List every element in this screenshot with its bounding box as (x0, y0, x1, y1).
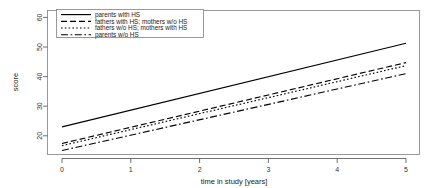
x-tick-label: 2 (198, 166, 202, 173)
legend-label-parents-wo-hs: parents w/o HS (95, 31, 139, 39)
x-tick-label: 3 (266, 166, 270, 173)
chart-figure: 60 50 40 30 20 score 0 1 2 3 4 (0, 0, 442, 188)
x-axis: 0 1 2 3 4 5 time in study [years] (60, 159, 408, 187)
series-group (62, 43, 406, 150)
y-tick-label: 60 (36, 13, 43, 21)
legend: parents with HS fathers with HS; mothers… (57, 10, 204, 39)
y-tick-label: 20 (36, 132, 43, 140)
x-tick-label: 0 (60, 166, 64, 173)
line-chart: 60 50 40 30 20 score 0 1 2 3 4 (0, 0, 442, 188)
x-tick-label: 1 (129, 166, 133, 173)
x-tick-label: 5 (404, 166, 408, 173)
y-axis: 60 50 40 30 20 score (11, 13, 48, 139)
y-tick-label: 50 (36, 43, 43, 51)
y-axis-title: score (11, 73, 20, 91)
y-tick-label: 40 (36, 73, 43, 81)
y-tick-label: 30 (36, 102, 43, 110)
series-line-fathers-wo-hs-mothers-with-hs (62, 66, 406, 146)
x-axis-title: time in study [years] (201, 177, 268, 186)
series-line-fathers-with-hs-mothers-wo-hs (62, 63, 406, 144)
x-tick-label: 4 (335, 166, 339, 173)
